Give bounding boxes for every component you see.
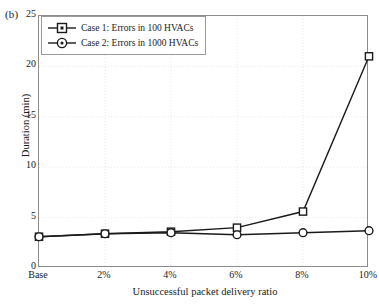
data-point-marker bbox=[167, 229, 175, 237]
legend-item-case-2[interactable]: Case 2: Errors in 1000 HVACs bbox=[46, 35, 198, 50]
series-line-1 bbox=[39, 56, 369, 236]
figure-panel-b: (b) Duration (min) Unsuccessful packet d… bbox=[0, 0, 379, 304]
x-tick-label: 6% bbox=[206, 269, 266, 280]
chart-legend: Case 1: Errors in 100 HVACs Case 2: Erro… bbox=[41, 16, 206, 55]
square-marker-icon bbox=[46, 21, 78, 35]
x-tick-label: 4% bbox=[140, 269, 200, 280]
x-tick-label: 10% bbox=[338, 269, 379, 280]
data-point-marker bbox=[365, 53, 372, 60]
legend-item-case-1[interactable]: Case 1: Errors in 100 HVACs bbox=[46, 20, 198, 35]
x-tick-label: Base bbox=[8, 269, 68, 280]
legend-label-case-2: Case 2: Errors in 1000 HVACs bbox=[78, 38, 198, 48]
legend-label-case-1: Case 1: Errors in 100 HVACs bbox=[78, 23, 194, 33]
data-point-marker bbox=[299, 229, 307, 237]
data-point-marker bbox=[365, 227, 373, 235]
x-tick-label: 2% bbox=[74, 269, 134, 280]
circle-marker-icon bbox=[46, 36, 78, 50]
series-line-2 bbox=[39, 231, 369, 237]
data-point-marker bbox=[299, 208, 306, 215]
data-point-marker bbox=[101, 230, 109, 238]
data-point-marker bbox=[233, 231, 241, 239]
data-series-layer bbox=[35, 53, 373, 241]
data-point-marker bbox=[35, 233, 43, 241]
x-tick-label: 8% bbox=[272, 269, 332, 280]
